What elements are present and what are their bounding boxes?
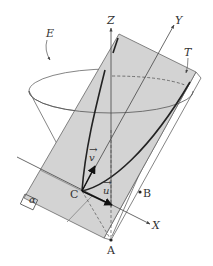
label-a: A: [106, 244, 116, 257]
label-e: E: [45, 27, 54, 40]
e-pointer: [46, 40, 50, 60]
label-u-arrow: →: [103, 177, 112, 188]
label-t: T: [184, 46, 193, 59]
label-b: B: [143, 187, 151, 200]
plane-alpha: [20, 34, 196, 238]
label-alpha: α: [29, 194, 36, 205]
label-z: Z: [106, 14, 115, 27]
point-a: [109, 238, 112, 241]
label-c: C: [70, 188, 78, 201]
point-b: [138, 190, 141, 193]
label-y: Y: [175, 14, 184, 27]
diagram-canvas: E T Z Y X C A B α v → u →: [0, 0, 213, 266]
label-v-arrow: →: [89, 144, 98, 155]
label-x: X: [151, 219, 161, 232]
